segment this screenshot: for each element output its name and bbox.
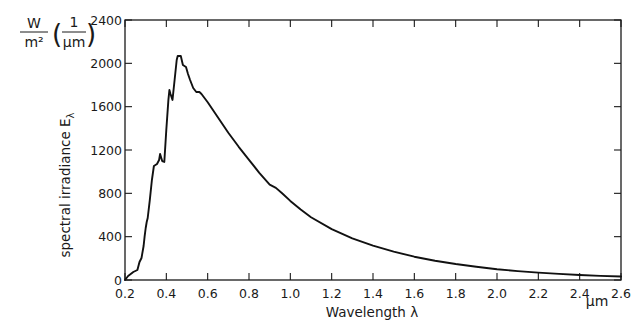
svg-text:spectral irradiance Eλ: spectral irradiance Eλ <box>57 112 76 257</box>
y-tick-label: 800 <box>98 186 122 201</box>
x-tick-label: 0.4 <box>156 286 176 301</box>
y-axis-subscript: λ <box>65 112 76 118</box>
x-axis-title: Wavelength λ <box>326 304 418 320</box>
plot-frame <box>125 20 621 280</box>
spectral-irradiance-chart: W m² ( 1 µm ) spectral irradiance Eλ 040… <box>0 0 643 333</box>
x-tick-label: 0.2 <box>115 286 135 301</box>
x-tick-label: 0.8 <box>239 286 259 301</box>
irradiance-curve <box>125 56 621 280</box>
y-unit-factor-numerator: 1 <box>70 14 79 30</box>
x-tick-label: 1.8 <box>446 286 466 301</box>
x-tick-label: 1.4 <box>363 286 383 301</box>
x-tick-label: 2.2 <box>528 286 548 301</box>
y-unit-denominator: m² <box>24 34 43 50</box>
y-tick-label: 1600 <box>90 99 122 114</box>
x-tick-label: 0.6 <box>198 286 218 301</box>
y-tick-label: 400 <box>98 229 122 244</box>
y-unit-label: W m² ( 1 µm ) <box>20 14 96 50</box>
y-tick-label: 2400 <box>90 13 122 28</box>
x-axis-unit: µm <box>586 293 609 309</box>
y-tick-label: 1200 <box>90 143 122 158</box>
x-tick-label: 1.0 <box>280 286 300 301</box>
x-tick-label: 1.6 <box>404 286 424 301</box>
x-tick-label: 1.2 <box>322 286 342 301</box>
y-tick-label: 2000 <box>90 56 122 71</box>
x-tick-label: 2.6 <box>611 286 631 301</box>
x-tick-label: 2.0 <box>487 286 507 301</box>
axis-ticks <box>125 20 621 280</box>
y-unit-numerator: W <box>27 15 41 31</box>
x-tick-labels: 0.20.40.60.81.01.21.41.61.82.02.22.42.6 <box>115 286 631 301</box>
y-unit-factor-denominator: µm <box>63 34 86 50</box>
y-axis-title-text: spectral irradiance E <box>57 118 73 257</box>
open-paren: ( <box>52 19 62 49</box>
y-axis-title: spectral irradiance Eλ <box>57 112 76 257</box>
y-tick-labels: 04008001200160020002400 <box>90 13 122 288</box>
